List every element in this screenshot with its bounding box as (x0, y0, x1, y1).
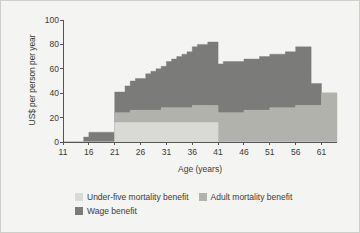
legend-swatch-icon (199, 193, 207, 201)
x-tick-label: 36 (180, 147, 204, 157)
x-tick-label: 61 (309, 147, 333, 157)
legend-entry-under-five: Under-five mortality benefit (75, 192, 189, 202)
legend-entry-adult: Adult mortality benefit (199, 192, 293, 202)
legend-entry-wage: Wage benefit (75, 206, 137, 216)
x-tick-label: 16 (77, 147, 101, 157)
x-tick-label: 41 (206, 147, 230, 157)
legend-row: Wage benefit (75, 204, 337, 218)
chart-legend: Under-five mortality benefit Adult morta… (75, 190, 337, 218)
x-tick-label: 51 (258, 147, 282, 157)
legend-row: Under-five mortality benefit Adult morta… (75, 190, 337, 204)
legend-swatch-icon (75, 207, 83, 215)
x-tick-label: 56 (284, 147, 308, 157)
legend-label: Wage benefit (87, 206, 137, 216)
x-tick-label: 31 (154, 147, 178, 157)
legend-swatch-icon (75, 193, 83, 201)
x-tick-label: 21 (103, 147, 127, 157)
chart-figure: US$ per person per year 100806040200 111… (0, 0, 360, 233)
x-axis-title: Age (years) (63, 164, 337, 174)
legend-label: Adult mortality benefit (211, 192, 293, 202)
x-tick-label: 26 (129, 147, 153, 157)
x-tick-label: 11 (51, 147, 75, 157)
x-tick-label: 46 (232, 147, 256, 157)
legend-label: Under-five mortality benefit (87, 192, 189, 202)
